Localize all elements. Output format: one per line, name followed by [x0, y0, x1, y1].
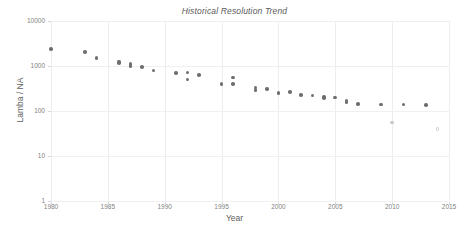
data-point: [140, 65, 144, 69]
data-point: [356, 102, 360, 106]
data-point: [333, 96, 337, 100]
x-tick-mark: [108, 202, 109, 205]
data-point: [95, 56, 99, 60]
y-axis-title: Lamba / NA: [15, 40, 25, 160]
data-point: [379, 103, 383, 107]
data-point: [277, 91, 281, 95]
data-point: [186, 78, 190, 82]
data-point: [152, 69, 156, 73]
data-point: [231, 76, 235, 80]
y-tick-label: 100: [5, 107, 45, 114]
data-point: [390, 121, 394, 125]
data-point: [402, 103, 406, 107]
x-tick-mark: [165, 202, 166, 205]
gridline-horizontal: [51, 156, 449, 157]
data-point: [174, 71, 178, 75]
gridline-vertical: [449, 21, 450, 201]
data-point: [288, 90, 292, 94]
scatter-chart: Historical Resolution Trend 110100100010…: [0, 0, 469, 233]
x-tick-mark: [335, 202, 336, 205]
data-point: [83, 50, 87, 54]
y-tick-label: 10: [5, 152, 45, 159]
gridline-horizontal: [51, 201, 449, 202]
data-point: [322, 96, 326, 100]
data-point: [49, 47, 53, 51]
gridline-horizontal: [51, 111, 449, 112]
x-tick-mark: [278, 202, 279, 205]
gridline-horizontal: [51, 66, 449, 67]
data-point: [254, 88, 258, 92]
chart-title: Historical Resolution Trend: [0, 6, 469, 16]
y-tick-label: 1000: [5, 62, 45, 69]
x-tick-mark: [392, 202, 393, 205]
data-point: [345, 100, 349, 104]
gridline-horizontal: [51, 21, 449, 22]
data-point: [311, 94, 315, 98]
x-tick-mark: [51, 202, 52, 205]
data-point: [231, 82, 235, 86]
y-tick-label: 10000: [5, 17, 45, 24]
x-tick-mark: [449, 202, 450, 205]
data-point: [186, 71, 190, 75]
data-point: [117, 61, 121, 65]
plot-area: [51, 21, 449, 201]
data-point: [299, 93, 303, 97]
data-point: [424, 103, 428, 107]
data-point: [436, 127, 440, 131]
x-tick-mark: [222, 202, 223, 205]
data-point: [197, 73, 201, 77]
data-point: [129, 64, 133, 68]
data-point: [265, 87, 269, 91]
data-point: [220, 82, 224, 86]
x-axis-title: Year: [0, 213, 469, 223]
